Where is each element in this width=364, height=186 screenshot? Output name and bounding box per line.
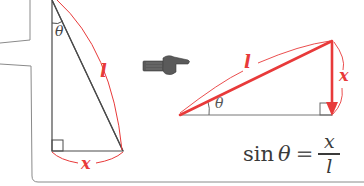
angle-arc — [208, 102, 209, 115]
formula-variable: θ — [278, 142, 291, 166]
left-hypotenuse-label: l — [100, 60, 107, 81]
pointing-hand-icon — [143, 56, 190, 75]
right-side-label: x — [339, 66, 349, 85]
formula-function: sin — [243, 142, 274, 166]
right-hypotenuse-label: l — [244, 51, 251, 72]
formula-equals: = — [296, 142, 314, 166]
formula-fraction: x l — [318, 132, 340, 175]
right-angle-label: θ — [215, 95, 223, 111]
formula-denominator: l — [324, 157, 334, 176]
left-base-label: x — [81, 154, 91, 173]
formula-numerator: x — [322, 132, 337, 151]
right-angle-marker — [52, 140, 63, 151]
arrowhead — [326, 102, 338, 116]
sine-formula: sin θ = x l — [243, 132, 340, 176]
left-angle-label: θ — [55, 23, 63, 39]
rotated-right-triangle — [180, 41, 344, 116]
hypotenuse-vector — [180, 41, 332, 115]
